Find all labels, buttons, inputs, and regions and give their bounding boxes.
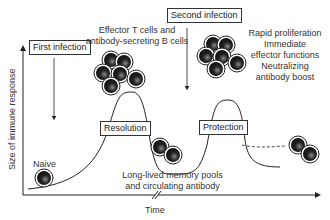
secondary-response-description: Rapid proliferation Immediate effector f… [240, 28, 330, 83]
x-axis-label: Time [145, 205, 165, 216]
secondary-cell-cluster-icon [197, 35, 246, 78]
x-axis [23, 191, 318, 199]
y-axis-label: Size of immune response [7, 68, 17, 170]
naive-cell-icon [35, 169, 53, 187]
effector-description: Effector T cells and antibody-secreting … [82, 25, 192, 47]
memory-description: Long-lived memory pools and circulating … [120, 170, 225, 192]
effector-cell-cluster-icon [94, 51, 145, 95]
protection-label: Protection [199, 120, 248, 135]
memory-decay-dashed [242, 145, 285, 147]
memory-cells-icon [151, 138, 182, 164]
naive-label: Naive [33, 159, 56, 170]
second-infection-label: Second infection [167, 8, 242, 23]
resolution-label: Resolution [100, 121, 151, 136]
late-memory-cells-icon [289, 136, 319, 163]
